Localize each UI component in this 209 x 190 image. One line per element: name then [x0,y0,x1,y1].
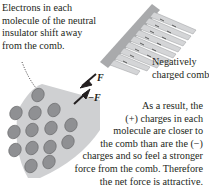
caption-left: Electrons in each molecule of the neutra… [2,2,96,52]
arrow-head-on-comb [80,80,92,88]
force-label-F: F⃗ [97,72,111,83]
comb-label: Negatively charged comb [152,56,209,81]
leader-line [22,62,36,88]
caption-right: As a result, the (+) charges in each mol… [74,100,203,188]
force-label-minus-F: −F⃗ [88,92,109,103]
